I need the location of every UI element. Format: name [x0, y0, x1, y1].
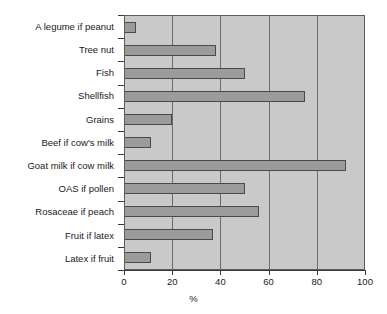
bar-row — [125, 154, 364, 177]
y-axis-label: Rosaceae if peach — [0, 201, 119, 224]
bar — [124, 206, 259, 217]
x-tick-mark — [269, 270, 270, 275]
bar-row — [125, 246, 364, 269]
x-axis-title: % — [0, 294, 387, 304]
x-tick-label: 20 — [167, 277, 178, 287]
x-axis-line — [124, 270, 365, 271]
y-axis-label: OAS if pollen — [0, 177, 119, 200]
bar-row — [125, 39, 364, 62]
y-axis-label: Goat milk if cow milk — [0, 154, 119, 177]
y-axis-label: Beef if cow's milk — [0, 131, 119, 154]
x-tick-mark — [124, 270, 125, 275]
x-tick-label: 0 — [121, 277, 126, 287]
x-tick-label: 80 — [312, 277, 323, 287]
bar — [124, 68, 245, 79]
y-axis-label: Shellfish — [0, 85, 119, 108]
x-tick-label: 60 — [263, 277, 274, 287]
bar — [124, 45, 216, 56]
bar — [124, 252, 151, 263]
bar-row — [125, 108, 364, 131]
bar-row — [125, 131, 364, 154]
bar — [124, 160, 346, 171]
x-tick-label: 40 — [215, 277, 226, 287]
plot-area — [124, 15, 365, 270]
bar-row — [125, 16, 364, 39]
y-axis-label: Fish — [0, 61, 119, 84]
bar-row — [125, 200, 364, 223]
y-axis-label: Grains — [0, 108, 119, 131]
x-tick-mark — [317, 270, 318, 275]
bar-row — [125, 85, 364, 108]
bar — [124, 183, 245, 194]
y-axis-label: Latex if fruit — [0, 247, 119, 270]
y-axis-label: Fruit if latex — [0, 224, 119, 247]
y-axis-category-labels: A legume if peanut Tree nut Fish Shellfi… — [0, 15, 119, 270]
bar — [124, 137, 151, 148]
bar-row — [125, 223, 364, 246]
bar-chart: A legume if peanut Tree nut Fish Shellfi… — [0, 0, 387, 314]
bar — [124, 22, 136, 33]
bar-row — [125, 62, 364, 85]
y-axis-label: Tree nut — [0, 38, 119, 61]
bar — [124, 91, 305, 102]
bar — [124, 114, 172, 125]
y-axis-label: A legume if peanut — [0, 15, 119, 38]
x-tick-mark — [172, 270, 173, 275]
x-tick-label: 100 — [357, 277, 373, 287]
x-tick-mark — [365, 270, 366, 275]
bar — [124, 229, 213, 240]
bar-series — [125, 16, 364, 269]
x-tick-mark — [220, 270, 221, 275]
bar-row — [125, 177, 364, 200]
